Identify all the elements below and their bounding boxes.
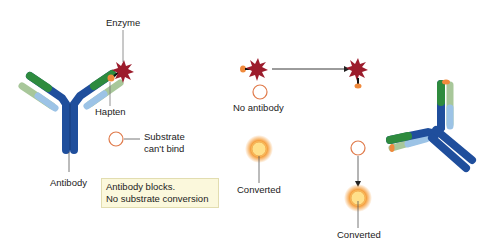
substrate-ring-middle	[253, 85, 267, 99]
converted-label-right: Converted	[337, 229, 381, 240]
antibody-label: Antibody	[50, 177, 87, 188]
note-line-1: Antibody blocks.	[106, 181, 214, 193]
substrate-cant-bind-label-1: Substrate	[144, 131, 185, 142]
diagram-canvas	[0, 0, 494, 249]
antibody-blocks-note: Antibody blocks. No substrate conversion	[101, 178, 219, 208]
hapten-enzyme-left	[108, 30, 135, 106]
note-line-2: No substrate conversion	[106, 193, 214, 205]
antibody-left	[22, 74, 120, 172]
substrate-ring-left	[109, 132, 140, 146]
hapten-enzyme-free	[240, 58, 268, 81]
substrate-cant-bind-label-2: can't bind	[144, 143, 184, 154]
substrate-ring-right	[351, 141, 365, 187]
antibody-right	[390, 80, 473, 169]
converted-substrate-middle	[245, 135, 273, 183]
hapten-enzyme-released	[346, 58, 368, 89]
hapten-label: Hapten	[95, 106, 126, 117]
enzyme-label: Enzyme	[106, 17, 140, 28]
reaction-arrow	[272, 66, 350, 72]
converted-label-middle: Converted	[237, 184, 281, 195]
converted-substrate-right	[344, 184, 372, 228]
no-antibody-label: No antibody	[233, 102, 284, 113]
